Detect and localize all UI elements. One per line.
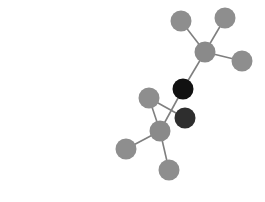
atom-h6 <box>159 160 180 181</box>
atom-h5 <box>116 139 137 160</box>
atom-c1 <box>195 42 216 63</box>
atoms-group <box>116 8 253 181</box>
atom-h4 <box>139 88 160 109</box>
atom-c2 <box>150 121 171 142</box>
atom-o2 <box>175 108 196 129</box>
atom-h1 <box>171 11 192 32</box>
atom-h2 <box>215 8 236 29</box>
molecule-model <box>0 0 265 202</box>
atom-o1 <box>173 79 194 100</box>
atom-h3 <box>232 51 253 72</box>
